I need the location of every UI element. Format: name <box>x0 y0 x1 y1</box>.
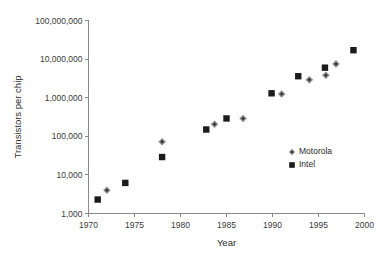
x-tick-label: 1995 <box>309 220 328 230</box>
chart-legend: MotorolaIntel <box>289 146 333 169</box>
series-intel <box>95 47 357 203</box>
data-point-intel <box>223 115 229 121</box>
x-tick-label: 1980 <box>171 220 190 230</box>
y-tick-label: 100,000 <box>52 131 83 141</box>
chart-plot-area: 1,00010,000100,0001,000,00010,000,000100… <box>0 0 383 262</box>
data-point-intel <box>322 64 328 70</box>
data-point-intel <box>122 180 128 186</box>
data-point-intel <box>203 126 209 132</box>
y-tick-label: 100,000,000 <box>35 16 83 26</box>
x-tick-label: 1970 <box>79 220 98 230</box>
x-tick-label: 1975 <box>125 220 144 230</box>
data-point-intel <box>268 90 274 96</box>
x-tick-label: 1990 <box>263 220 282 230</box>
y-tick-label: 1,000 <box>61 209 83 219</box>
x-tick-label: 2000 <box>355 220 374 230</box>
series-motorola <box>103 60 340 194</box>
data-point-intel <box>295 73 301 79</box>
y-axis-title: Transistors per chip <box>12 75 23 158</box>
data-point-intel <box>95 196 101 202</box>
legend-label-intel: Intel <box>299 159 315 169</box>
x-tick-label: 1985 <box>217 220 236 230</box>
transistor-count-chart: 1,00010,000100,0001,000,00010,000,000100… <box>0 0 383 262</box>
y-tick-label: 1,000,000 <box>45 93 83 103</box>
x-axis-title: Year <box>217 237 236 248</box>
y-tick-label: 10,000 <box>57 170 83 180</box>
data-point-intel <box>350 47 356 53</box>
data-point-intel <box>159 154 165 160</box>
legend-marker-intel <box>289 162 295 168</box>
legend-label-motorola: Motorola <box>299 146 332 156</box>
y-tick-label: 10,000,000 <box>40 54 83 64</box>
